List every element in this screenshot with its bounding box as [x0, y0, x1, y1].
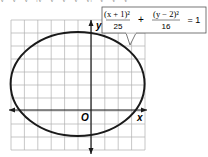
term1-numerator: (x + 1)² [104, 9, 130, 19]
x-axis-label: x [136, 112, 143, 123]
origin-label: O [81, 112, 89, 123]
term2-denominator: 16 [162, 22, 171, 31]
x-axis-arrow-left-icon [9, 108, 15, 113]
y-axis-label: y [95, 20, 102, 31]
term2-numerator: (y − 2)² [153, 9, 179, 19]
plus-sign: + [138, 14, 144, 25]
callout-pointer [126, 33, 136, 45]
equals-one: = 1 [188, 15, 201, 25]
ellipse-curve [11, 32, 145, 136]
y-axis-arrow-down-icon [89, 148, 94, 154]
grid [11, 20, 145, 150]
y-axis-arrow-up-icon [89, 20, 94, 26]
term1-denominator: 25 [114, 22, 123, 31]
ellipse-graph: y x O (x + 1)² 25 + (y − 2)² 16 = 1 [0, 0, 208, 157]
equation-callout: (x + 1)² 25 + (y − 2)² 16 = 1 [102, 7, 206, 45]
